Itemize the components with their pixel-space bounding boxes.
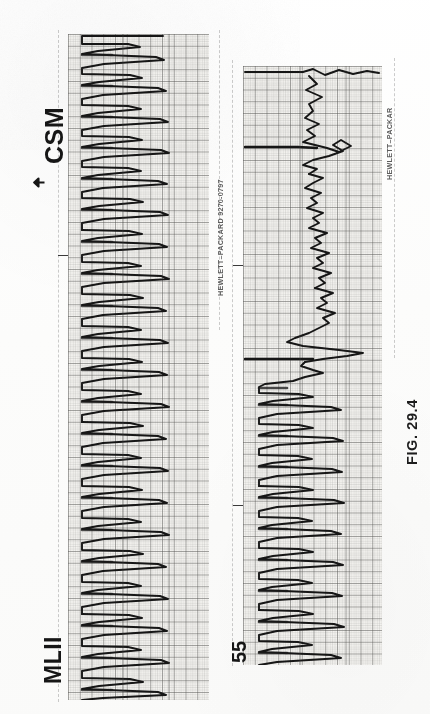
down-arrow-icon: [33, 176, 46, 189]
page-number: 55: [228, 641, 251, 663]
ecg-strip-2-canvas: [243, 66, 382, 665]
strip-2-manufacturer-mark: HEWLETT–PACKAR: [385, 108, 394, 180]
page-mid-separator: [232, 60, 233, 666]
strip-2-time-tick-lower: [233, 505, 243, 506]
strip-1-manufacturer-mark: HEWLETT–PACKARD 9270-0797: [216, 179, 225, 296]
lead-label-mlii: MLII: [40, 636, 67, 684]
strip-2-right-separator: [394, 58, 395, 358]
strip-2-time-tick-upper: [233, 265, 243, 266]
csm-label: CSM: [40, 107, 69, 164]
ecg-strip-1: [68, 34, 209, 700]
strip-1-time-tick: [58, 255, 68, 256]
figure-page: CSM MLII 55 HEWLETT–PACKARD 9270-0797 HE…: [0, 0, 430, 714]
ecg-strip-2: [243, 66, 382, 665]
ecg-strip-1-canvas: [68, 34, 209, 700]
figure-caption: FIG. 29.4: [404, 399, 420, 465]
